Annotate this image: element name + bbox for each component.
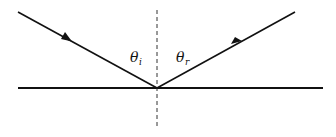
- incident-arrow-icon: [61, 32, 72, 42]
- incident-angle-label: θ: [130, 49, 139, 65]
- incident-angle-subscript: i: [139, 57, 142, 67]
- reflected-angle-label: θ: [176, 49, 185, 65]
- reflected-angle-subscript: r: [185, 57, 190, 67]
- reflection-diagram: θ i θ r: [0, 0, 336, 137]
- diagram-svg: θ i θ r: [0, 0, 336, 137]
